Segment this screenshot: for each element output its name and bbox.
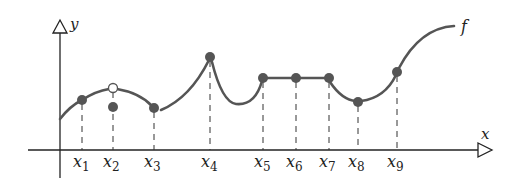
y-axis-arrow-icon [53,20,67,33]
point-x5 [258,73,268,83]
point-x7 [324,73,334,83]
x-axis-arrow-icon [478,143,492,157]
tick-label-x8: x8 [348,152,365,174]
tick-label-x3: x3 [144,152,161,174]
point-x2-open [109,84,118,93]
tick-label-x6: x6 [286,152,303,174]
point-x8 [353,97,363,107]
tick-label-x7: x7 [319,152,336,174]
function-label: f [460,17,470,36]
tick-label-x1: x1 [73,152,90,174]
tick-label-x4: x4 [201,152,218,174]
x-axis-label: x [481,125,490,143]
point-x9 [392,67,402,77]
tick-label-x5: x5 [254,152,271,174]
point-x3 [149,103,159,113]
y-axis-label: y [69,15,79,33]
tick-label-x9: x9 [387,152,404,174]
point-x1 [77,95,87,105]
function-graph: y x f x1 [0,0,518,181]
point-x6 [291,73,301,83]
dashed-guides [82,61,397,150]
tick-labels: x1 x2 x3 x4 x5 x6 x7 x8 x9 [73,152,404,174]
point-x2-filled [108,102,118,112]
tick-label-x2: x2 [103,152,120,174]
point-x4 [205,52,215,62]
